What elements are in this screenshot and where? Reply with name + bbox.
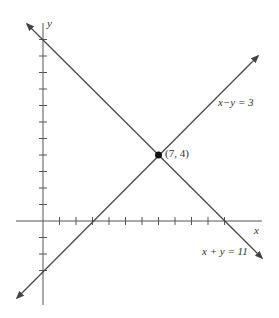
- chart-canvas: [0, 0, 279, 318]
- intersection-label: (7, 4): [165, 147, 189, 159]
- equation-label-x-plus-y: x + y = 11: [202, 245, 248, 257]
- intersection-point: [155, 152, 162, 159]
- x-axis-label: x: [254, 224, 259, 236]
- equation-label-x-minus-y: x−y = 3: [218, 96, 254, 108]
- y-axis-label: y: [47, 17, 52, 29]
- line-x-minus-y-eq-3: [17, 56, 258, 298]
- line-x-plus-y-eq-11: [27, 24, 262, 258]
